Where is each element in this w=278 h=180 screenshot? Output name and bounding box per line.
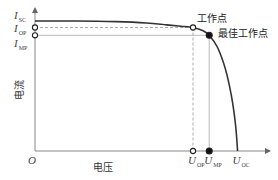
origin-label: O xyxy=(28,154,36,166)
iop-axis-marker xyxy=(32,25,37,30)
iv-curve-line xyxy=(35,21,238,151)
iv-curve-chart: ISCIOPIMPUOPUMPUOC O 电压 电流 工作点 最佳工作点 xyxy=(0,0,278,180)
max-power-point-marker xyxy=(206,32,212,38)
max-power-point-label: 最佳工作点 xyxy=(218,27,268,39)
operating-point-marker xyxy=(190,25,195,30)
operating-point-label: 工作点 xyxy=(197,13,227,24)
x-tick-uoc: UOC xyxy=(233,154,250,168)
x-axis-title: 电压 xyxy=(93,161,113,173)
y-axis-title: 电流 xyxy=(13,80,25,100)
imp-axis-marker xyxy=(32,33,37,38)
uop-axis-marker xyxy=(190,148,195,153)
x-tick-uop: UOP xyxy=(188,154,205,168)
y-tick-imp: IMP xyxy=(13,37,28,51)
y-tick-iop: IOP xyxy=(13,22,27,36)
x-tick-ump: UMP xyxy=(204,154,222,168)
